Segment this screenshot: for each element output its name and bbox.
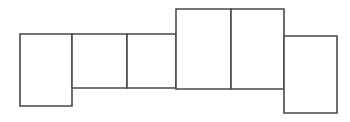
net-rectangle-6 (284, 36, 337, 113)
net-rectangle-4 (176, 9, 231, 89)
shape-layer (20, 9, 337, 113)
diagram-canvas (0, 0, 350, 122)
rectangle-net-figure (0, 0, 350, 122)
net-rectangle-3 (127, 34, 176, 88)
net-rectangle-5 (231, 9, 284, 89)
net-rectangle-2 (72, 34, 127, 88)
net-rectangle-1 (20, 34, 72, 106)
